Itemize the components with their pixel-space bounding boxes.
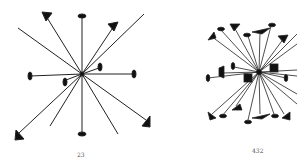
triangle-marker-icon	[208, 112, 216, 120]
ellipse-marker-icon	[218, 27, 225, 31]
ellipse-marker-icon	[63, 78, 67, 86]
diagram-canvas	[0, 0, 297, 161]
ellipse-marker-icon	[269, 23, 276, 27]
left-star-figure	[15, 12, 150, 140]
triangle-marker-icon	[230, 24, 240, 31]
triangle-marker-icon	[252, 28, 270, 34]
ellipse-marker-icon	[244, 33, 251, 37]
ellipse-marker-icon	[98, 63, 102, 71]
figure-caption-right: 432	[252, 147, 263, 154]
ellipse-marker-icon	[245, 120, 252, 124]
ellipse-marker-icon	[206, 75, 210, 82]
figure-caption-left: 23	[77, 151, 85, 158]
triangle-marker-icon	[108, 22, 118, 31]
ellipse-marker-icon	[78, 14, 86, 18]
square-marker-icon	[244, 74, 252, 82]
triangle-marker-icon	[15, 130, 24, 140]
right-star-figure	[206, 23, 297, 124]
ellipse-marker-icon	[284, 75, 288, 82]
ellipse-marker-icon	[220, 114, 227, 118]
ellipse-marker-icon	[132, 70, 136, 78]
ellipse-marker-icon	[28, 72, 32, 80]
ellipse-marker-icon	[231, 63, 235, 70]
ellipse-marker-icon	[272, 114, 279, 118]
triangle-marker-icon	[42, 12, 52, 21]
square-marker-icon	[219, 66, 224, 78]
ellipse-marker-icon	[78, 132, 86, 136]
triangle-marker-icon	[252, 114, 270, 119]
triangle-marker-icon	[278, 35, 288, 43]
